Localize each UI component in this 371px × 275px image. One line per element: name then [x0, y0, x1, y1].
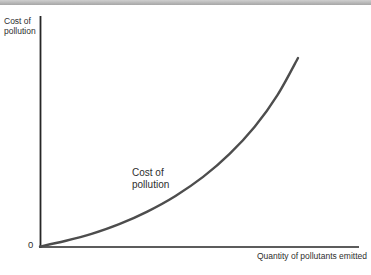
y-axis-label: Cost of pollution	[4, 16, 42, 36]
curve-annotation: Cost of pollution	[132, 167, 180, 190]
x-axis-label: Quantity of pollutants emitted	[257, 251, 367, 261]
cost-curve	[40, 58, 298, 247]
origin-label: 0	[28, 240, 33, 250]
chart-canvas	[0, 0, 371, 275]
figure: Cost of pollution 0 Quantity of pollutan…	[0, 0, 371, 275]
